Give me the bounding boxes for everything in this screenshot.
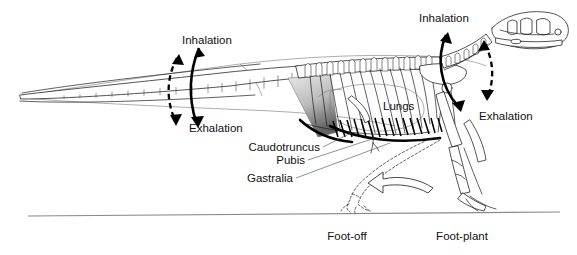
label-lungs: Lungs — [383, 100, 415, 112]
hindlimb-foot-off — [341, 138, 440, 213]
label-inhalation-tail: Inhalation — [182, 34, 232, 46]
arrowhead-dashed-up-tail — [172, 54, 184, 65]
label-gastralia: Gastralia — [247, 172, 294, 184]
label-exhalation-head: Exhalation — [479, 110, 533, 122]
label-caudotruncus: Caudotruncus — [248, 141, 320, 153]
arrowhead-inhalation-tail — [194, 48, 205, 58]
label-foot-off: Foot-off — [327, 230, 367, 242]
gastralia — [330, 118, 442, 141]
limb-swing-arrow — [368, 172, 433, 193]
arrowhead-inhalation-head — [440, 32, 452, 44]
skull — [492, 12, 569, 49]
dinosaur-breathing-diagram: Inhalation Exhalation Inhalation Exhalat… — [0, 0, 577, 255]
label-foot-plant: Foot-plant — [436, 230, 489, 242]
ground-line — [28, 212, 560, 216]
label-inhalation-head: Inhalation — [419, 12, 469, 24]
arrowhead-dashed-down-tail — [170, 114, 182, 126]
label-exhalation-tail: Exhalation — [189, 122, 243, 134]
forelimb — [348, 96, 379, 153]
arrowhead-dashed-down-head — [481, 90, 494, 101]
label-pubis: Pubis — [276, 154, 305, 166]
caudal-vertebrae — [20, 64, 302, 102]
